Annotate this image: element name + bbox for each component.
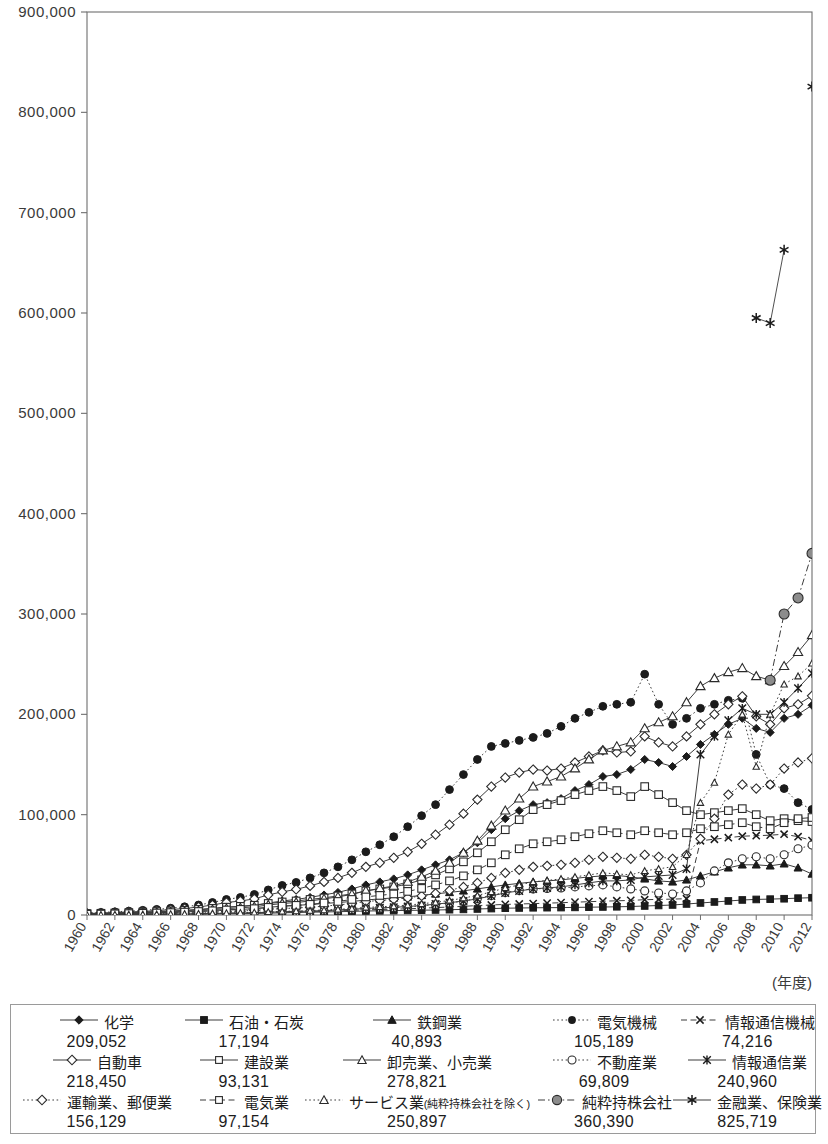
legend-item-header: サービス業(純粋持株会社を除く) (304, 1091, 530, 1112)
marker-square-open (474, 866, 482, 874)
legend-item-header: 電気機械 (552, 1011, 657, 1032)
marker-square-open (571, 833, 579, 841)
x-axis-tick-label: 1974 (255, 919, 285, 954)
legend-item-header: 不動産業 (552, 1051, 657, 1072)
legend-marker-icon (552, 1012, 592, 1032)
legend-item-junsui[interactable]: 純粋持株会社360,390 (524, 1091, 683, 1131)
legend-item-label: 化学 (104, 1011, 134, 1032)
x-axis-tick-label: 1984 (395, 919, 425, 954)
marker-square-open (766, 817, 774, 825)
x-axis-tick-label: 1990 (478, 919, 508, 954)
marker-square-open (557, 797, 565, 805)
legend-item-value: 105,189 (574, 1033, 634, 1051)
marker-square-open (599, 783, 607, 791)
marker-square-filled (641, 903, 648, 910)
legend-item-denkigyo[interactable]: 電気業97,154 (178, 1091, 309, 1131)
marker-square-filled (767, 896, 774, 903)
marker-square-filled (809, 894, 816, 901)
marker-square-open (501, 826, 509, 834)
legend-marker-icon (680, 1012, 720, 1032)
legend-item-value: 278,821 (387, 1073, 447, 1091)
legend-item-header: 金融業、保険業 (672, 1091, 822, 1112)
legend-item-denki_kikai[interactable]: 電気機械105,189 (524, 1011, 683, 1051)
legend-marker-icon (304, 1092, 344, 1112)
legend-item-sekiyu[interactable]: 石油・石炭17,194 (178, 1011, 309, 1051)
marker-square-open (418, 885, 426, 893)
legend-item-service[interactable]: サービス業(純粋持株会社を除く)250,897 (310, 1091, 525, 1131)
x-axis-tick-label: 1998 (590, 919, 620, 954)
x-axis-tick-label: 1982 (367, 919, 397, 954)
y-axis-tick-label: 700,000 (18, 204, 76, 221)
marker-square-open (585, 830, 593, 838)
marker-square-open (460, 858, 468, 866)
legend-item-kinyu[interactable]: 金融業、保険業825,719 (684, 1091, 811, 1131)
marker-circle-filled (348, 856, 356, 864)
marker-circle-open (766, 855, 774, 863)
marker-square-open (683, 807, 691, 815)
legend-item-value: 40,893 (392, 1033, 443, 1051)
marker-square-open (543, 838, 551, 846)
marker-circle-open (641, 887, 649, 895)
marker-circle-filled (376, 841, 384, 849)
legend-item-jidosha[interactable]: 自動車218,450 (15, 1051, 178, 1091)
x-axis-tick-label: 2006 (702, 919, 732, 954)
legend-item-label: 建設業 (244, 1051, 289, 1072)
legend-item-tekko[interactable]: 鉄鋼業40,893 (310, 1011, 525, 1051)
marker-square-open (766, 825, 774, 833)
plot-frame (87, 12, 812, 915)
legend-item-label: 情報通信機械 (725, 1011, 815, 1032)
marker-square-open (488, 859, 496, 867)
x-axis-tick-label: 1980 (339, 919, 369, 954)
marker-square-open (488, 838, 496, 846)
marker-square-open (599, 827, 607, 835)
x-axis-tick-label: 2000 (618, 919, 648, 954)
legend-marker-icon (687, 1052, 727, 1072)
legend-item-header: 運輸業、郵便業 (22, 1091, 172, 1112)
legend-item-header: 卸売業、小売業 (342, 1051, 492, 1072)
marker-square-open (752, 811, 760, 819)
legend-item-label: 自動車 (97, 1051, 142, 1072)
x-axis-tick-label: 2012 (785, 919, 815, 954)
marker-square-open (376, 892, 384, 900)
y-axis-tick-label: 300,000 (18, 605, 76, 622)
marker-square-filled (697, 900, 704, 907)
legend-item-fudosan[interactable]: 不動産業69,809 (524, 1051, 683, 1091)
marker-circle-gray (793, 593, 803, 603)
legend-item-header: 情報通信業 (687, 1051, 807, 1072)
legend-item-header: 電気業 (199, 1091, 289, 1112)
legend-row: 自動車218,450 建設業93,131 卸売業、小売業278,821 不動産業… (15, 1051, 811, 1091)
marker-square-filled (711, 899, 718, 906)
x-axis-tick-label: 1992 (506, 919, 536, 954)
legend-item-label: 鉄鋼業 (417, 1011, 462, 1032)
x-axis-unit-label: (年度) (772, 974, 812, 991)
marker-circle-open (752, 853, 760, 861)
legend-item-label: 純粋持株会社 (582, 1091, 672, 1112)
legend-item-kagaku[interactable]: 化学209,052 (15, 1011, 178, 1051)
marker-circle-filled (571, 714, 579, 722)
legend-item-oroshi[interactable]: 卸売業、小売業278,821 (310, 1051, 525, 1091)
x-axis-tick-label: 1960 (60, 919, 90, 954)
legend-item-header: 情報通信機械 (680, 1011, 815, 1032)
x-axis-tick-label: 2008 (729, 919, 759, 954)
marker-circle-filled (460, 771, 468, 779)
legend-item-unyu[interactable]: 運輸業、郵便業156,129 (15, 1091, 178, 1131)
marker-square-open (752, 823, 760, 831)
legend-item-joho_kikai[interactable]: 情報通信機械74,216 (684, 1011, 811, 1051)
chart-canvas: 0100,000200,000300,000400,000500,000600,… (0, 0, 828, 1000)
chart-page: 0100,000200,000300,000400,000500,000600,… (0, 0, 828, 1144)
marker-circle-filled (655, 700, 663, 708)
marker-circle-filled (334, 863, 342, 871)
marker-circle-open (794, 845, 802, 853)
line-chart-svg: 0100,000200,000300,000400,000500,000600,… (0, 0, 828, 1000)
marker-square-filled (627, 903, 634, 910)
legend-item-joho_tsushin[interactable]: 情報通信業240,960 (684, 1051, 811, 1091)
legend-item-value: 360,390 (574, 1113, 634, 1131)
marker-square-open (627, 793, 635, 801)
marker-circle-open (655, 889, 663, 897)
marker-square-open (515, 845, 523, 853)
legend-item-value: 240,960 (717, 1073, 777, 1091)
marker-circle-filled (529, 734, 537, 742)
marker-square-open (334, 898, 342, 906)
legend-item-kensetsu[interactable]: 建設業93,131 (178, 1051, 309, 1091)
marker-square-filled (669, 902, 676, 909)
